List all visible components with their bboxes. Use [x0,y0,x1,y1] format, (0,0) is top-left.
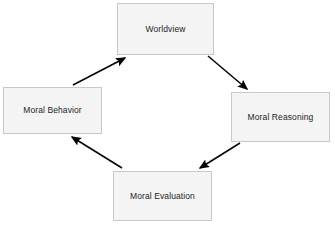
moral-cycle-diagram: Worldview Moral Reasoning Moral Evaluati… [0,0,335,227]
node-moral-reasoning-label: Moral Reasoning [248,113,314,122]
node-moral-behavior-label: Moral Behavior [23,106,82,115]
edge-moral-reasoning-to-moral-evaluation [200,143,240,168]
node-worldview-label: Worldview [146,25,186,34]
node-moral-evaluation[interactable]: Moral Evaluation [113,171,212,221]
edge-moral-behavior-to-worldview [73,58,125,85]
node-moral-behavior[interactable]: Moral Behavior [3,87,102,134]
edge-worldview-to-moral-reasoning [208,56,247,89]
node-moral-reasoning[interactable]: Moral Reasoning [231,92,330,142]
node-moral-evaluation-label: Moral Evaluation [130,192,195,201]
edge-moral-evaluation-to-moral-behavior [72,137,122,168]
node-worldview[interactable]: Worldview [117,3,214,55]
